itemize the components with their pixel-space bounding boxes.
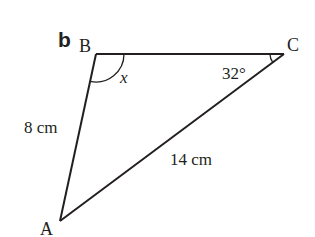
side-label-ac: 14 cm — [170, 150, 212, 169]
vertex-label-a: A — [40, 219, 53, 237]
side-ab — [60, 54, 96, 221]
angle-label-32: 32° — [222, 64, 246, 83]
vertex-label-c: C — [287, 35, 299, 55]
side-ac — [60, 54, 284, 221]
angle-label-x: x — [119, 68, 128, 87]
angle-arc-c — [270, 54, 273, 62]
vertex-label-b: B — [79, 36, 91, 56]
triangle — [60, 54, 284, 221]
side-label-ab: 8 cm — [24, 118, 58, 137]
part-label: b — [58, 28, 71, 51]
triangle-diagram: b B C A x 32° 8 cm 14 cm — [0, 0, 315, 237]
